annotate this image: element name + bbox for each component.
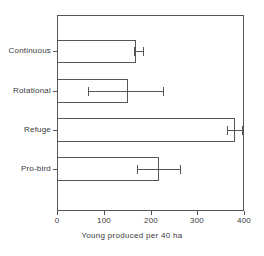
error-bar-cap-high-continuous — [143, 47, 144, 56]
y-label-slot-pro-bird: Pro-bird — [0, 164, 51, 174]
error-bar-cap-low-pro-bird — [137, 165, 138, 174]
y-label-slot-refuge: Refuge — [0, 125, 51, 135]
y-label-slot-continuous: Continuous — [0, 46, 51, 56]
error-bar-cap-low-continuous — [134, 47, 135, 56]
x-tick-100 — [104, 211, 105, 215]
bar-continuous — [57, 40, 136, 63]
x-axis-ticklabel-0: 0 — [55, 216, 60, 225]
y-axis-label-rotational: Rotational — [13, 86, 51, 95]
chart-figure: Continuous Rotational Refuge Pro-bird 0 … — [0, 0, 264, 256]
x-axis-ticklabel-200: 200 — [144, 216, 158, 225]
x-tick-200 — [151, 211, 152, 215]
error-bar-cap-high-rotational — [163, 87, 164, 96]
x-tick-400 — [244, 211, 245, 215]
x-axis-title: Young produced per 40 ha — [0, 231, 264, 241]
error-bar-cap-low-refuge — [227, 126, 228, 135]
x-axis-ticklabel-100: 100 — [97, 216, 111, 225]
x-tick-0 — [57, 211, 58, 215]
error-bar-line-pro-bird — [137, 169, 181, 170]
y-axis-label-refuge: Refuge — [24, 125, 51, 134]
y-axis-label-continuous: Continuous — [9, 46, 51, 55]
y-label-slot-rotational: Rotational — [0, 86, 51, 96]
error-bar-cap-high-pro-bird — [180, 165, 181, 174]
error-bar-line-refuge — [227, 130, 243, 131]
error-bar-cap-low-rotational — [88, 87, 89, 96]
x-axis-ticklabel-400: 400 — [237, 216, 251, 225]
x-tick-300 — [197, 211, 198, 215]
x-axis-ticklabel-300: 300 — [190, 216, 204, 225]
bar-refuge — [57, 118, 235, 142]
error-bar-line-rotational — [88, 91, 164, 92]
error-bar-cap-high-refuge — [242, 126, 243, 135]
y-axis-label-pro-bird: Pro-bird — [21, 164, 51, 173]
